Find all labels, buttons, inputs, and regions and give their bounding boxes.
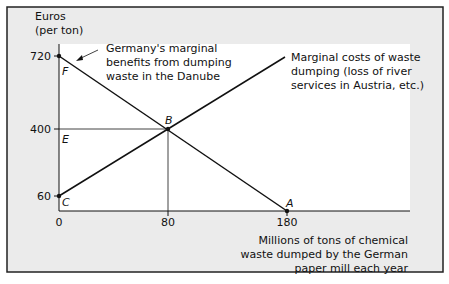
y-axis-label-line-2: (per ton) bbox=[35, 24, 83, 37]
point-label-c: C bbox=[62, 196, 70, 209]
cost-curve-label-line-1: Marginal costs of waste bbox=[291, 51, 421, 64]
point-label-a: A bbox=[285, 197, 294, 210]
point-c bbox=[57, 194, 61, 198]
x-axis-label-line-3: paper mill each year bbox=[295, 262, 409, 275]
point-label-b: B bbox=[165, 114, 173, 127]
y-tick-label-720: 720 bbox=[30, 50, 51, 63]
y-axis-label-line-1: Euros bbox=[35, 10, 66, 23]
x-tick-label-80: 80 bbox=[161, 216, 175, 229]
externality-diagram: Euros (per ton) 720 400 60 0 80 180 F E … bbox=[0, 0, 449, 284]
point-label-e: E bbox=[62, 133, 69, 146]
cost-curve-label-line-2: dumping (loss of river bbox=[291, 65, 412, 78]
benefit-curve-label-line-3: waste in the Danube bbox=[106, 70, 220, 83]
benefit-curve-label-line-2: benefits from dumping bbox=[106, 56, 232, 69]
x-axis-label-line-2: waste dumped by the German bbox=[240, 248, 408, 261]
x-axis-label-line-1: Millions of tons of chemical bbox=[259, 234, 409, 247]
cost-curve-label-line-3: services in Austria, etc.) bbox=[291, 79, 424, 92]
x-tick-label-180: 180 bbox=[277, 216, 298, 229]
y-tick-label-400: 400 bbox=[30, 123, 51, 136]
benefit-curve-label-line-1: Germany's marginal bbox=[106, 42, 217, 55]
x-tick-label-0: 0 bbox=[56, 216, 63, 229]
point-label-f: F bbox=[62, 65, 69, 78]
point-f bbox=[57, 54, 61, 58]
point-b bbox=[166, 127, 170, 131]
y-tick-label-60: 60 bbox=[37, 190, 51, 203]
